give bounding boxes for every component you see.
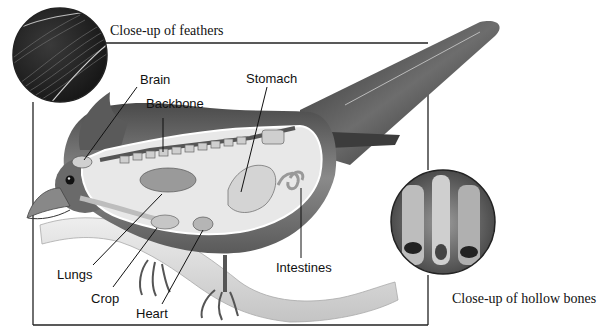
brain-label: Brain [140,73,170,86]
feather-closeup [10,5,110,106]
crest [79,92,128,150]
lungs-art [140,168,196,192]
backbone-label: Backbone [146,97,204,110]
diagram-artwork [0,0,600,335]
lungs-label: Lungs [57,268,92,281]
stomach-label: Stomach [246,72,297,85]
brain-art [72,156,92,168]
heart-art [193,217,213,231]
heart-label: Heart [136,307,168,320]
intestines-label: Intestines [276,261,332,274]
crop-label: Crop [91,292,119,305]
feathers-caption: Close-up of feathers [110,24,224,38]
crop-art [151,215,179,229]
bird-anatomy-diagram: Close-up of feathers Close-up of hollow … [0,0,600,335]
eye [66,176,75,185]
hollow-bones-caption: Close-up of hollow bones [452,292,596,306]
